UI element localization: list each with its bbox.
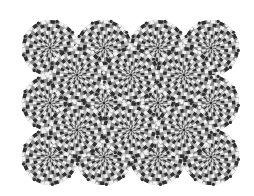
disc-center-dot	[103, 47, 105, 49]
disc-center-dot	[157, 47, 159, 49]
disc-center-dot	[103, 102, 105, 104]
disc-center-dot	[49, 156, 51, 158]
disc-center-dot	[183, 129, 185, 131]
disc-center-dot	[157, 102, 159, 104]
disc-center-dot	[183, 74, 185, 76]
disc-center-dot	[130, 74, 132, 76]
illusion-canvas: Rotating snakes optical illusion	[0, 0, 254, 196]
disc-center-dot	[76, 129, 78, 131]
disc-center-dot	[49, 47, 51, 49]
disc-center-dot	[210, 47, 212, 49]
rotating-snakes-artwork	[0, 0, 254, 196]
disc-center-dot	[157, 156, 159, 158]
disc-center-dot	[210, 156, 212, 158]
disc-center-dot	[130, 129, 132, 131]
disc-center-dot	[210, 102, 212, 104]
disc-center-dot	[49, 102, 51, 104]
disc-center-dot	[103, 156, 105, 158]
disc-center-dot	[76, 74, 78, 76]
